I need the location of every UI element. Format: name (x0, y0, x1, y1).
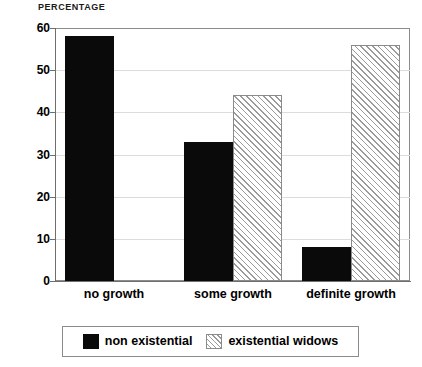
legend-swatch-hatch-icon (206, 334, 222, 349)
y-tick-label: 20 (4, 191, 50, 203)
y-tick-label: 50 (4, 64, 50, 76)
y-axis-line (55, 28, 56, 282)
y-tick-label: 30 (4, 149, 50, 161)
legend-label: non existential (105, 335, 193, 348)
x-tick-label: no growth (84, 287, 144, 301)
bar (302, 247, 351, 281)
x-axis-line (55, 281, 411, 282)
y-axis-labels: 6050403020100 (0, 0, 50, 367)
bar (233, 95, 282, 281)
y-tick-label: 40 (4, 106, 50, 118)
legend-entry: non existential (83, 334, 193, 349)
bar-chart-figure: PERCENTAGE 6050403020100 no growthsome g… (0, 0, 422, 367)
bar (65, 36, 114, 281)
y-tick-label: 10 (4, 233, 50, 245)
legend-entry: existential widows (206, 334, 338, 349)
x-tick-label: some growth (194, 287, 272, 301)
legend-label: existential widows (228, 335, 338, 348)
legend-swatch-solid-icon (83, 334, 99, 349)
y-tick-label: 0 (4, 275, 50, 287)
bar (184, 142, 233, 281)
bar (351, 45, 400, 281)
x-tick-label: definite growth (306, 287, 396, 301)
y-tick-label: 60 (4, 22, 50, 34)
chart-legend: non existentialexistential widows (62, 326, 359, 357)
